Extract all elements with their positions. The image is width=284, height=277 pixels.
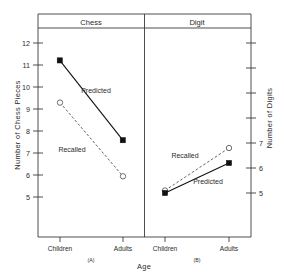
chess-recalled-line	[60, 103, 123, 177]
chess-recalled-marker-children	[57, 100, 62, 105]
digit-predicted-marker-children	[162, 190, 167, 195]
left-ytick-7: 7	[26, 149, 30, 158]
chess-recalled-label: Recalled	[58, 146, 85, 153]
digit-predicted-marker-adults	[226, 160, 231, 165]
chess-predicted-label: Predicted	[81, 87, 111, 94]
panel-b-digit-series: Recalled Predicted	[162, 145, 231, 195]
right-y-axis: 7 6 5	[246, 43, 263, 198]
xtick-panel-a-children: Children	[48, 245, 73, 252]
xtick-panel-b-adults: Adults	[220, 245, 239, 252]
chess-predicted-marker-adults	[120, 138, 125, 143]
right-axis-title: Number of Digits	[265, 88, 274, 149]
two-panel-line-chart: Chess Digit 12 11 10 9 8 7 6 5 Number of…	[0, 0, 284, 277]
left-ytick-11: 11	[23, 61, 30, 70]
chart-frame	[38, 14, 251, 237]
x-axis-ticks	[60, 237, 229, 242]
left-y-axis: 12 11 10 9 8 7 6 5	[22, 39, 43, 202]
left-ytick-5: 5	[26, 193, 30, 202]
panel-a-chess-series: Predicted Recalled	[57, 58, 126, 179]
left-ytick-12: 12	[22, 39, 30, 48]
xtick-panel-b-children: Children	[153, 245, 178, 252]
digit-recalled-label: Recalled	[171, 152, 198, 159]
digit-recalled-marker-adults	[226, 145, 231, 150]
left-ytick-9: 9	[26, 105, 30, 114]
xtick-panel-a-adults: Adults	[114, 245, 133, 252]
panel-tag-a: (A)	[88, 257, 95, 263]
x-axis-title: Age	[137, 262, 151, 271]
left-axis-title: Number of Chess Pieces	[13, 80, 22, 169]
chess-predicted-marker-children	[57, 58, 62, 63]
chart-figure: Chess Digit 12 11 10 9 8 7 6 5 Number of…	[0, 0, 284, 277]
digit-predicted-label: Predicted	[193, 178, 223, 185]
chess-recalled-marker-adults	[120, 174, 125, 179]
panel-tag-b: (B)	[194, 257, 201, 263]
panel-title-digit: Digit	[189, 18, 205, 27]
left-ytick-10: 10	[22, 83, 30, 92]
left-ytick-8: 8	[26, 127, 30, 136]
panel-title-chess: Chess	[80, 18, 102, 27]
left-ytick-6: 6	[26, 171, 30, 180]
right-ytick-6: 6	[259, 164, 263, 173]
chess-predicted-line	[60, 61, 123, 141]
right-ytick-5: 5	[259, 189, 263, 198]
right-ytick-7: 7	[259, 139, 263, 148]
